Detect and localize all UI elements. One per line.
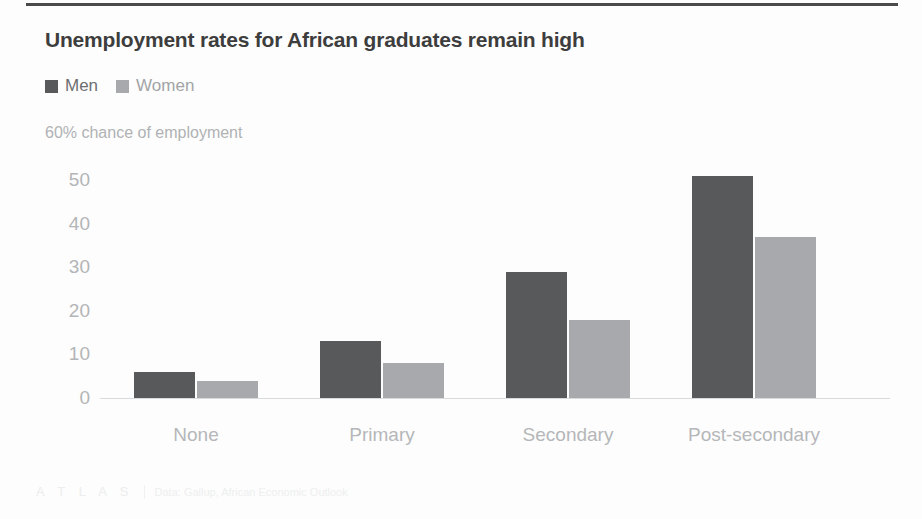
bar-men-none[interactable] — [134, 372, 195, 398]
bar-women-secondary[interactable] — [569, 320, 630, 398]
atlas-brand-label: A T L A S — [36, 484, 134, 499]
x-tick-label: Primary — [349, 424, 414, 446]
legend-label-men: Men — [65, 76, 98, 96]
bar-men-secondary[interactable] — [506, 272, 567, 398]
x-tick-label: Post-secondary — [688, 424, 820, 446]
chart-footer: A T L A S Data: Gallup, African Economic… — [36, 484, 348, 499]
footer-divider — [144, 485, 145, 499]
legend-item-women[interactable]: Women — [116, 76, 194, 96]
men-swatch-icon — [45, 80, 58, 93]
legend-item-men[interactable]: Men — [45, 76, 98, 96]
source-attribution: Data: Gallup, African Economic Outlook — [155, 486, 348, 498]
bar-men-primary[interactable] — [320, 341, 381, 398]
chart-subtitle: 60% chance of employment — [45, 124, 242, 142]
chart-figure: Unemployment rates for African graduates… — [0, 0, 922, 519]
x-tick-label: None — [173, 424, 218, 446]
x-axis-baseline — [100, 398, 890, 399]
bar-series-container — [30, 160, 892, 398]
bar-women-post-secondary[interactable] — [755, 237, 816, 398]
bar-women-none[interactable] — [197, 381, 258, 398]
chart-legend: Men Women — [45, 76, 194, 96]
plot-area: 01020304050 — [30, 160, 892, 410]
x-tick-label: Secondary — [523, 424, 614, 446]
legend-label-women: Women — [136, 76, 194, 96]
top-divider — [26, 3, 898, 6]
women-swatch-icon — [116, 80, 129, 93]
bar-women-primary[interactable] — [383, 363, 444, 398]
bar-men-post-secondary[interactable] — [692, 176, 753, 398]
chart-title: Unemployment rates for African graduates… — [45, 28, 585, 52]
x-axis-labels: NonePrimarySecondaryPost-secondary — [30, 424, 892, 454]
